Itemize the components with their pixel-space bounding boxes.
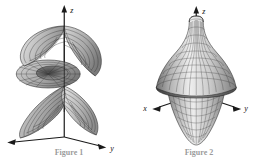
caption-right: Figure 2 — [134, 148, 261, 157]
figure-left-spiral-ramp: z y — [0, 0, 131, 157]
z-axis-arrowhead — [193, 6, 199, 14]
x-axis-label: x — [142, 104, 147, 113]
bell-surface-plot: x y z — [131, 0, 262, 157]
y-axis-line — [64, 137, 100, 146]
z-axis-label: z — [201, 7, 206, 16]
y-axis-label: y — [243, 104, 248, 113]
x-axis-arrowhead — [152, 106, 161, 112]
y-axis-arrowhead — [232, 106, 241, 112]
bell-upper-lobe — [156, 16, 236, 96]
z-axis-arrowhead — [61, 5, 67, 13]
z-axis-label: z — [69, 6, 74, 15]
figure-panel: z y — [0, 0, 261, 157]
ramp-lower-sheet — [20, 86, 98, 138]
spiral-ramp-plot: z y — [0, 0, 131, 157]
caption-left: Figure 1 — [4, 148, 134, 157]
x-axis-arrowhead — [7, 139, 16, 145]
caption-strip: Figure 1 Figure 2 — [0, 148, 261, 157]
figure-right-bell-surface: x y z — [131, 0, 262, 157]
